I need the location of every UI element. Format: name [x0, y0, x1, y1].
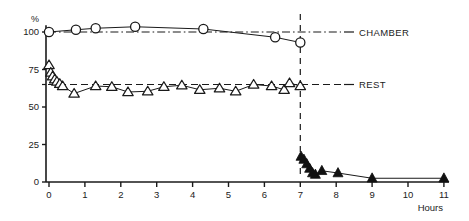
x-tick-label: 11 [439, 189, 449, 200]
x-tick-label: 5 [226, 189, 231, 200]
y-tick-label: 75 [28, 64, 39, 75]
data-point-circle [71, 25, 80, 34]
x-tick-label: 10 [403, 189, 414, 200]
chamber-series-label: CHAMBER [359, 27, 409, 38]
x-tick-label: 7 [298, 189, 303, 200]
x-tick-label: 1 [82, 189, 87, 200]
x-tick-label: 2 [118, 189, 123, 200]
x-tick-label: 8 [334, 189, 339, 200]
line-chart-svg: 0255075100 01234567891011 CHAMBERREST % … [0, 0, 469, 221]
x-tick-label: 6 [262, 189, 267, 200]
rest-series-label: REST [359, 79, 386, 90]
data-point-circle [271, 33, 280, 42]
x-tick-label: 3 [154, 189, 159, 200]
data-point-circle [199, 24, 208, 33]
data-point-circle [131, 22, 140, 31]
x-tick-label: 4 [190, 189, 195, 200]
y-tick-label: 50 [28, 101, 39, 112]
chart-figure: 0255075100 01234567891011 CHAMBERREST % … [0, 0, 469, 221]
data-point-circle [296, 38, 305, 47]
y-axis-unit-label: % [31, 14, 39, 24]
y-tick-label: 100 [23, 26, 39, 37]
x-axis-title: Hours [418, 202, 444, 213]
y-tick-label: 25 [28, 139, 39, 150]
data-point-circle [44, 27, 53, 36]
x-tick-label: 9 [369, 189, 374, 200]
x-tick-label: 0 [46, 189, 51, 200]
data-point-circle [91, 24, 100, 33]
y-tick-label: 0 [34, 176, 39, 187]
